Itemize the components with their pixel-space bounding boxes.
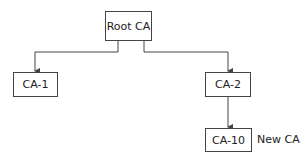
node-ca-1: CA-1 [13, 72, 58, 97]
edge-root-ca2 [144, 41, 228, 71]
node-root-ca: Root CA [105, 11, 152, 41]
node-ca-10: CA-10 [205, 128, 252, 152]
node-ca-2: CA-2 [205, 72, 251, 97]
node-label: CA-10 [212, 134, 245, 147]
node-label: CA-1 [23, 78, 49, 91]
new-ca-annotation: New CA [257, 133, 300, 146]
node-label: Root CA [107, 20, 151, 33]
node-label: CA-2 [215, 78, 241, 91]
edge-root-ca1 [35, 41, 118, 71]
